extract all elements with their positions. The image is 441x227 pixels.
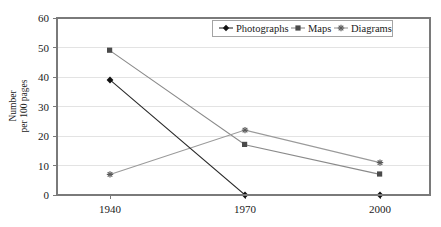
y-tick-label-40: 40 <box>38 71 50 83</box>
datapoint-maps-2000 <box>377 171 382 176</box>
chart-container: 60 50 40 30 20 10 0 Number per 100 pages… <box>0 0 441 227</box>
y-tick-label-10: 10 <box>38 160 50 172</box>
datapoint-diagrams-1970 <box>242 127 248 133</box>
legend-label-maps: Maps <box>308 23 331 34</box>
y-tick-label-30: 30 <box>38 101 50 113</box>
y-tick-label-60: 60 <box>38 12 50 24</box>
datapoint-diagrams-1940 <box>107 171 113 177</box>
legend-label-photographs: Photographs <box>236 23 289 34</box>
y-axis-title-line1: Number <box>8 90 18 122</box>
datapoint-diagrams-2000 <box>377 159 383 165</box>
y-tick-label-0: 0 <box>44 189 50 201</box>
legend-label-diagrams: Diagrams <box>351 23 392 34</box>
legend[interactable]: Photographs Maps Diagrams <box>212 20 392 36</box>
y-tick-label-50: 50 <box>38 42 50 54</box>
line-chart: 60 50 40 30 20 10 0 Number per 100 pages… <box>0 0 441 227</box>
x-tick-label-2000: 2000 <box>369 203 392 215</box>
datapoint-maps-1940 <box>107 48 112 53</box>
datapoint-maps-1970 <box>242 142 247 147</box>
asterisk-marker-icon <box>338 25 344 31</box>
x-tick-label-1970: 1970 <box>234 203 257 215</box>
y-tick-label-20: 20 <box>38 130 50 142</box>
square-marker-icon <box>295 25 300 30</box>
y-axis-title-line2: per 100 pages <box>19 79 29 132</box>
x-tick-label-1940: 1940 <box>99 203 122 215</box>
